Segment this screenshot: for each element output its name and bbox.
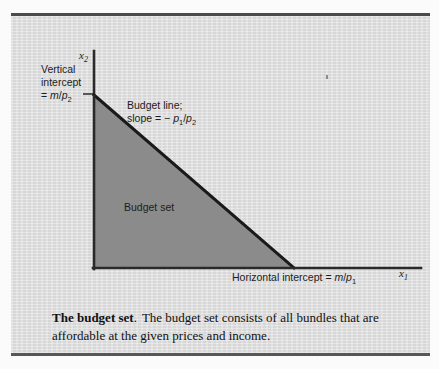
budget-set-annotation: Budget set [124,201,174,214]
vertical-intercept-line2: intercept [41,76,81,89]
caption-title-period: . [134,310,137,325]
horizontal-intercept-annotation: Horizontal intercept = m/p1 [232,271,356,286]
figure-caption: The budget set.The budget set consists o… [52,309,404,344]
x-axis-label: x1 [399,267,408,279]
vertical-intercept-line3: = m/p2 [41,89,81,103]
budget-line-annotation: Budget line; slope = − p1/p2 [127,99,196,126]
vertical-intercept-annotation: Vertical intercept = m/p2 [41,63,81,103]
figure-page: x2 x1 Vertical intercept = m/p2 Budget l… [0,0,439,369]
y-axis-label: x2 [79,49,88,61]
budget-line-annotation-line1: Budget line; [127,99,196,112]
top-rule [11,13,430,16]
vertical-intercept-line1: Vertical [41,63,81,76]
caption-title: The budget set [52,310,134,325]
budget-set-plot [11,13,430,283]
figure-plate: x2 x1 Vertical intercept = m/p2 Budget l… [11,13,430,356]
scan-speck-artifact [326,75,328,79]
budget-line-annotation-line2: slope = − p1/p2 [127,112,196,126]
bottom-rule [11,353,430,356]
